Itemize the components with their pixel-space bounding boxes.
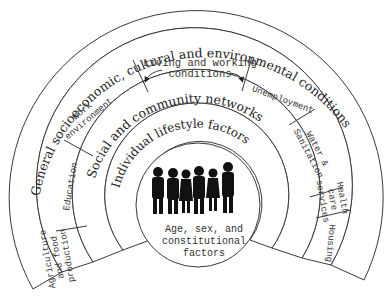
determinants-of-health-diagram: General socioeconomic, cultural and envi… — [0, 0, 392, 299]
svg-text:Age, sex, and: Age, sex, and — [165, 224, 243, 235]
svg-text:constitutional: constitutional — [162, 236, 246, 247]
svg-text:factors: factors — [183, 248, 225, 259]
living-working-label-2: conditions — [168, 68, 231, 80]
